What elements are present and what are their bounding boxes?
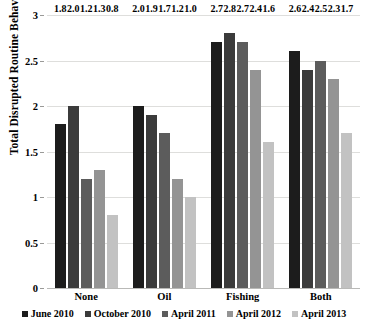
- bar[interactable]: [94, 170, 105, 288]
- bar-value-label: 1.7: [341, 3, 354, 14]
- legend-label: October 2010: [94, 308, 151, 319]
- bar-value-label: 2.0: [67, 3, 80, 14]
- bar[interactable]: [328, 79, 339, 288]
- y-axis-tick-label: 2.5: [0, 55, 38, 66]
- bar-group: 2.72.82.72.41.6: [211, 15, 274, 288]
- bar[interactable]: [315, 61, 326, 289]
- bar[interactable]: [68, 106, 79, 288]
- bar[interactable]: [263, 142, 274, 288]
- bar-value-label: 2.5: [315, 3, 328, 14]
- bar-value-label: 0.8: [106, 3, 119, 14]
- bar-group: 2.01.91.71.21.0: [133, 15, 196, 288]
- bar-group: 2.62.42.52.31.7: [289, 15, 352, 288]
- bar-slot: 2.4: [302, 15, 313, 288]
- bar-value-label: 2.4: [249, 3, 262, 14]
- bar-slot: 2.7: [237, 15, 248, 288]
- bar-slot: 1.7: [341, 15, 352, 288]
- bar-chart: Total Disrupted Routine Behaviors 00.511…: [0, 0, 368, 324]
- y-axis-tick-mark: [40, 197, 44, 198]
- bar-slot: 1.3: [94, 15, 105, 288]
- bar-value-label: 1.2: [80, 3, 93, 14]
- bar-value-label: 1.8: [54, 3, 67, 14]
- bar[interactable]: [172, 179, 183, 288]
- bar-slot: 2.3: [328, 15, 339, 288]
- bar[interactable]: [341, 133, 352, 288]
- bar-slot: 2.4: [250, 15, 261, 288]
- bar-slot: 1.7: [159, 15, 170, 288]
- category-label: Fishing: [204, 291, 282, 302]
- plot-area: 1.82.01.21.30.82.01.91.71.21.02.72.82.72…: [47, 15, 360, 288]
- gridline: [47, 288, 360, 289]
- y-axis-tick-labels: 00.511.522.53: [0, 15, 44, 288]
- bar-slot: 1.6: [263, 15, 274, 288]
- bar[interactable]: [185, 197, 196, 288]
- y-axis-tick-label: 0: [0, 283, 38, 294]
- y-axis-tick-label: 0.5: [0, 237, 38, 248]
- legend-item[interactable]: June 2010: [22, 308, 74, 319]
- bar-groups: 1.82.01.21.30.82.01.91.71.21.02.72.82.72…: [47, 15, 360, 288]
- bar-slot: 2.6: [289, 15, 300, 288]
- bar-value-label: 1.9: [145, 3, 158, 14]
- y-axis-tick-mark: [40, 243, 44, 244]
- bar-value-label: 2.8: [223, 3, 236, 14]
- bar-slot: 1.2: [172, 15, 183, 288]
- bar-slot: 2.8: [224, 15, 235, 288]
- bar-value-label: 1.0: [184, 3, 197, 14]
- bar-slot: 1.9: [146, 15, 157, 288]
- y-axis-tick-label: 1.5: [0, 146, 38, 157]
- bar[interactable]: [146, 115, 157, 288]
- bar-slot: 1.2: [81, 15, 92, 288]
- bar[interactable]: [289, 51, 300, 288]
- bar[interactable]: [133, 106, 144, 288]
- y-axis-tick-label: 1: [0, 192, 38, 203]
- legend-swatch-icon: [22, 311, 28, 317]
- bar-value-label: 2.6: [289, 3, 302, 14]
- bar-value-label: 1.7: [158, 3, 171, 14]
- bar-slot: 0.8: [107, 15, 118, 288]
- legend-swatch-icon: [292, 311, 298, 317]
- bar-value-label: 2.7: [236, 3, 249, 14]
- bar-value-label: 1.2: [171, 3, 184, 14]
- bar[interactable]: [250, 70, 261, 288]
- bar-slot: 2.0: [133, 15, 144, 288]
- bar-value-label: 2.7: [210, 3, 223, 14]
- category-label: Both: [282, 291, 360, 302]
- y-axis-tick-mark: [40, 61, 44, 62]
- y-axis-tick-label: 3: [0, 10, 38, 21]
- category-axis-labels: NoneOilFishingBoth: [47, 291, 360, 305]
- y-axis-tick-mark: [40, 152, 44, 153]
- bar[interactable]: [81, 179, 92, 288]
- bar-group: 1.82.01.21.30.8: [55, 15, 118, 288]
- bar-slot: 2.5: [315, 15, 326, 288]
- bar[interactable]: [211, 42, 222, 288]
- bar-slot: 2.0: [68, 15, 79, 288]
- y-axis-tick-mark: [40, 288, 44, 289]
- bar-value-label: 2.0: [132, 3, 145, 14]
- bar[interactable]: [224, 33, 235, 288]
- bar-slot: 1.0: [185, 15, 196, 288]
- legend-swatch-icon: [162, 311, 168, 317]
- legend-label: April 2013: [301, 308, 346, 319]
- bar-slot: 2.7: [211, 15, 222, 288]
- legend-item[interactable]: April 2013: [292, 308, 346, 319]
- bar-value-label: 2.3: [328, 3, 341, 14]
- bar[interactable]: [55, 124, 66, 288]
- legend-swatch-icon: [227, 311, 233, 317]
- bar[interactable]: [159, 133, 170, 288]
- bar[interactable]: [107, 215, 118, 288]
- bar[interactable]: [237, 42, 248, 288]
- bar-value-label: 2.4: [302, 3, 315, 14]
- legend-swatch-icon: [85, 311, 91, 317]
- legend-item[interactable]: April 2012: [227, 308, 281, 319]
- legend-item[interactable]: October 2010: [85, 308, 151, 319]
- legend-label: April 2011: [171, 308, 216, 319]
- category-label: Oil: [125, 291, 203, 302]
- legend-label: April 2012: [236, 308, 281, 319]
- legend-label: June 2010: [31, 308, 74, 319]
- bar-value-label: 1.6: [262, 3, 275, 14]
- category-label: None: [47, 291, 125, 302]
- bar[interactable]: [302, 70, 313, 288]
- bar-value-label: 1.3: [93, 3, 106, 14]
- y-axis-tick-mark: [40, 106, 44, 107]
- legend-item[interactable]: April 2011: [162, 308, 216, 319]
